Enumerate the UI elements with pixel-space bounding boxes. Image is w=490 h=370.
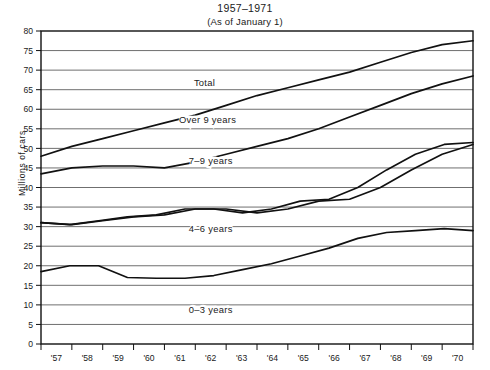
- x-tick-label: '69: [421, 353, 432, 363]
- y-tick-label: 0: [28, 339, 33, 349]
- y-tick-label: 65: [23, 85, 33, 95]
- series-label: 7–9 years: [189, 155, 233, 166]
- x-tick-marks-group: [41, 344, 473, 350]
- x-tick-label: '67: [359, 353, 370, 363]
- x-tick-label: '68: [390, 353, 401, 363]
- series-label: Total: [194, 77, 215, 88]
- chart-subtitle: (As of January 1): [0, 15, 490, 28]
- x-tick-label: '64: [267, 353, 278, 363]
- y-tick-label: 30: [23, 222, 33, 232]
- x-tick-label: '60: [143, 353, 154, 363]
- series-label: 4–6 years: [189, 223, 233, 234]
- x-tick-label: '59: [113, 353, 124, 363]
- chart-title-block: 1957–1971 (As of January 1): [0, 2, 490, 28]
- x-tick-label: '66: [329, 353, 340, 363]
- y-tick-label: 10: [23, 300, 33, 310]
- chart-container: 1957–1971 (As of January 1) Millions of …: [0, 0, 490, 370]
- line-chart-plot: 05101520253035404550556065707580 '57'58'…: [0, 0, 490, 370]
- x-tick-labels-group: '57'58'59'60'61'62'63'64'65'66'67'68'69'…: [51, 353, 464, 363]
- x-tick-label: '70: [452, 353, 463, 363]
- y-axis-label: Millions of cars: [17, 103, 27, 223]
- x-tick-label: '63: [236, 353, 247, 363]
- y-tick-label: 15: [23, 281, 33, 291]
- x-tick-label: '57: [51, 353, 62, 363]
- data-series-group: [41, 41, 473, 278]
- y-tick-label: 20: [23, 261, 33, 271]
- y-tick-label: 75: [23, 46, 33, 56]
- series-label: 0–3 years: [189, 304, 233, 315]
- chart-title: 1957–1971: [0, 2, 490, 15]
- x-tick-label: '58: [82, 353, 93, 363]
- series-line: [41, 144, 473, 224]
- y-tick-label: 5: [28, 320, 33, 330]
- y-tick-label: 70: [23, 65, 33, 75]
- y-tick-label: 25: [23, 241, 33, 251]
- series-line: [41, 41, 473, 156]
- x-tick-label: '61: [174, 353, 185, 363]
- series-inline-labels-group: TotalTotalOver 9 yearsOver 9 years7–9 ye…: [179, 77, 236, 316]
- x-tick-label: '62: [205, 353, 216, 363]
- gridlines-group: [36, 31, 473, 344]
- series-line: [41, 229, 473, 279]
- series-label: Over 9 years: [179, 114, 236, 125]
- series-line: [41, 76, 473, 174]
- x-tick-label: '65: [298, 353, 309, 363]
